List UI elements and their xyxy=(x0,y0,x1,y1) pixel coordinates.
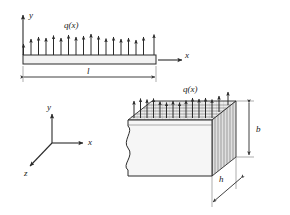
h-dimension-label: h xyxy=(219,174,224,184)
engineering-figure: y x q(x) xyxy=(0,0,290,215)
axis-y-label: y xyxy=(46,102,51,112)
distributed-load-arrows xyxy=(24,34,155,55)
h-dimension-line xyxy=(213,178,241,202)
axis-z-label: z xyxy=(23,168,28,178)
b-dimension-label: b xyxy=(256,124,261,134)
side-view-y-axis-label: y xyxy=(28,10,33,20)
block-front-face xyxy=(126,120,212,176)
solid-view-load-label: q(x) xyxy=(183,84,198,94)
beam-body xyxy=(23,55,156,64)
beam-side-view: y x q(x) xyxy=(23,10,189,82)
axis-z-line xyxy=(30,143,52,166)
beam-3d-view: q(x) b h xyxy=(126,84,261,207)
side-view-x-axis-label: x xyxy=(184,50,189,60)
length-dimension-label: l xyxy=(87,66,90,76)
axis-x-label: x xyxy=(87,137,92,147)
side-view-load-label: q(x) xyxy=(64,20,79,30)
coordinate-axes: y x z xyxy=(23,102,92,178)
figure-canvas: y x q(x) xyxy=(0,0,290,215)
